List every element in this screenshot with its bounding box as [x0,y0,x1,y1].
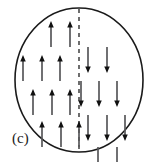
spin-arrows-layer [20,21,128,162]
arrow-head [49,89,55,96]
arrow-head [39,55,45,62]
spin-arrow-down [85,115,91,141]
spin-arrow-down [104,115,110,141]
arrow-head [57,55,63,62]
panel-label: (c) [12,131,29,146]
spin-arrow-up [20,55,26,81]
figure-panel: (c) [0,0,156,162]
spin-arrow-up [30,89,36,115]
spin-arrow-down [104,47,110,73]
arrow-head [30,89,36,96]
arrow-head [104,135,110,142]
arrow-head [85,67,91,74]
spin-arrow-down [114,147,120,162]
spin-arrow-up [48,21,54,47]
spin-arrow-up [67,89,73,115]
spin-arrow-down [114,81,120,107]
arrow-head [39,121,45,128]
arrow-head [48,21,54,28]
spin-arrow-up [67,21,73,47]
spin-arrow-down [85,47,91,73]
arrow-head [85,135,91,142]
arrow-head [58,121,64,128]
arrow-head [67,89,73,96]
arrow-head [114,101,120,108]
arrow-head [104,67,110,74]
spin-arrow-up [76,121,82,147]
arrow-head [96,101,102,108]
arrow-head [122,135,128,142]
arrow-head [76,121,82,128]
spin-arrow-up [39,121,45,147]
spin-arrow-up [58,121,64,147]
spin-arrow-up [57,55,63,81]
spin-arrow-down [96,81,102,107]
arrow-head [20,55,26,62]
spin-arrow-up [49,89,55,115]
spin-arrow-up [39,55,45,81]
arrow-head [67,21,73,28]
